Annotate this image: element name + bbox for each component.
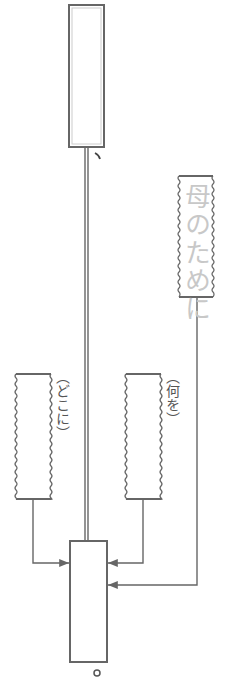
predicate-box[interactable] <box>70 541 107 662</box>
period-mark <box>94 670 100 676</box>
comma-mark <box>95 153 100 159</box>
modifier-connector <box>108 297 197 585</box>
where-connector <box>33 499 69 563</box>
diagram-canvas <box>0 0 230 699</box>
where-hint: （どこに） <box>55 370 69 440</box>
modifier-text: 母のために <box>182 183 208 323</box>
what-hint: （何を） <box>165 370 179 426</box>
what-connector <box>108 499 143 563</box>
what-box[interactable] <box>125 374 162 499</box>
subject-box[interactable] <box>69 5 104 147</box>
where-box[interactable] <box>15 374 52 499</box>
